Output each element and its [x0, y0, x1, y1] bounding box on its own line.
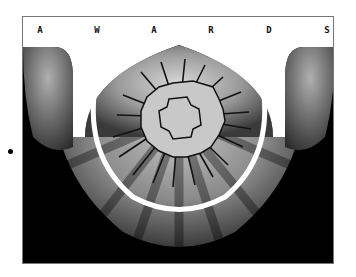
banner-letter-3: A — [151, 25, 156, 35]
banner-letter-5: D — [266, 25, 271, 35]
banner-letter-2: W — [94, 25, 99, 35]
awards-emblem-artwork — [23, 17, 334, 264]
awards-image-frame: A W A R D S — [22, 16, 334, 264]
banner-letter-1: A — [37, 25, 42, 35]
awards-letter-banner: A W A R D S — [23, 17, 333, 45]
bullet-marker — [8, 149, 13, 154]
banner-letter-4: R — [208, 25, 213, 35]
banner-letter-6: S — [324, 25, 329, 35]
